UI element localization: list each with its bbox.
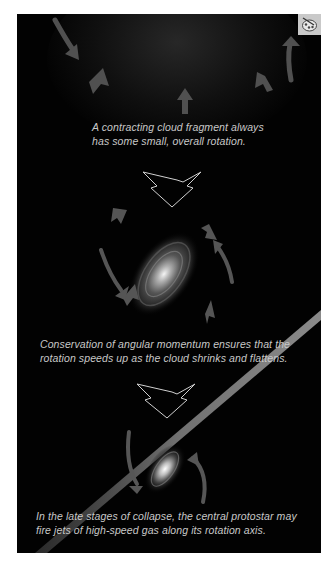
- caption-line: rotation speeds up as the cloud shrinks …: [40, 351, 290, 365]
- inflow-arrow-icon: [65, 36, 300, 114]
- rotating-disk: [114, 219, 215, 330]
- stage-3-caption: In the late stages of collapse, the cent…: [36, 509, 297, 537]
- caption-line: has some small, overall rotation.: [92, 134, 264, 148]
- caption-line: A contracting cloud fragment always: [92, 120, 264, 134]
- caption-line: Conservation of angular momentum ensures…: [40, 337, 290, 351]
- down-arrow-icon: [137, 384, 195, 418]
- star-formation-figure: A contracting cloud fragment always has …: [17, 14, 321, 553]
- stage-1-caption: A contracting cloud fragment always has …: [92, 120, 264, 148]
- caption-line: fire jets of high-speed gas along its ro…: [36, 523, 297, 537]
- caption-line: In the late stages of collapse, the cent…: [36, 509, 297, 523]
- inflow-arrow-icon: [55, 20, 291, 80]
- stage-2-caption: Conservation of angular momentum ensures…: [40, 337, 290, 365]
- figure-artwork: [17, 14, 321, 553]
- down-arrow-icon: [143, 172, 201, 207]
- palette-button[interactable]: [298, 14, 321, 35]
- palette-icon: [301, 17, 318, 32]
